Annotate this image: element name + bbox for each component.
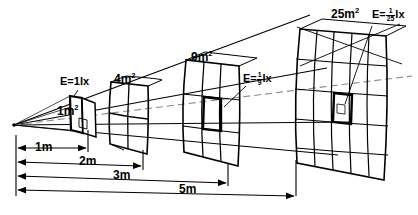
area-label-1m2: 1m2 <box>57 104 78 117</box>
dimension-label-1m: 1m <box>35 141 52 153</box>
dimension-label-5m: 5m <box>179 183 196 195</box>
dimension-label-2m: 2m <box>79 155 96 167</box>
illuminance-label-one-twentyfifth-lx: E=125lx <box>372 8 405 23</box>
light-source-point <box>12 123 16 127</box>
plane-9m2 <box>183 52 257 166</box>
dimension-label-3m: 3m <box>113 169 130 181</box>
area-label-4m2: 4m2 <box>114 72 135 85</box>
illuminance-label-1lx: E=1lx <box>60 76 89 87</box>
dimension-line-5m <box>18 190 294 196</box>
inverse-square-law-diagram: 1m2 4m2 9m2 25m2 E=1lx E=19lx E=125lx 1m… <box>0 0 418 215</box>
illuminance-label-one-ninth-lx: E=19lx <box>243 72 272 87</box>
dimension-lines <box>16 130 296 196</box>
area-label-25m2: 25m2 <box>331 7 359 20</box>
area-label-9m2: 9m2 <box>191 50 212 63</box>
plane-25m2 <box>295 19 406 180</box>
plane-4m2 <box>109 76 162 154</box>
